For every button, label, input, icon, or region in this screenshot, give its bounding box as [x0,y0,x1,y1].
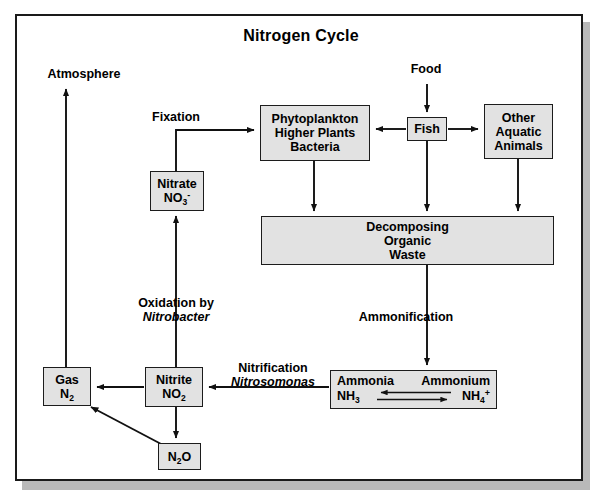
label-food: Food [384,62,468,76]
node-fish-label: Fish [414,122,440,136]
ammonia-formula-base: NH [337,389,355,403]
node-nitrous-oxide[interactable]: N2O [158,443,201,470]
node-gas-formula: N2 [60,387,74,401]
label-oxidation-line1: Oxidation by [112,296,240,310]
label-oxidation-line2: Nitrobacter [112,310,240,324]
node-phytoplankton-line2: Higher Plants [275,126,356,140]
node-fish[interactable]: Fish [407,117,447,141]
ammonium-formula-sup: + [485,388,490,398]
label-nitrification-nitrosomonas: Nitrification Nitrosomonas [210,361,336,389]
node-nitrate-label: Nitrate [157,177,197,191]
node-nitrate-formula-base: NO [164,191,183,205]
ammonium-formula: NH4+ [462,389,490,403]
node-other-aquatic-line1: Other [502,111,535,125]
node-phytoplankton-line3: Bacteria [290,140,339,154]
label-atmosphere: Atmosphere [28,67,140,81]
ammonia-formulas-row: NH3 NH4+ [337,389,490,403]
node-other-aquatic-line2: Aquatic [496,125,542,139]
label-ammonification-text: Ammonification [336,310,476,324]
label-atmosphere-text: Atmosphere [28,67,140,81]
node-ammonia-ammonium[interactable]: Ammonia Ammonium NH3 NH4+ [330,370,497,409]
node-nitrite[interactable]: Nitrite NO2 [145,367,203,407]
node-n2o-formula-sub: 2 [177,456,182,466]
ammonium-label: Ammonium [421,374,490,388]
nitrogen-cycle-diagram: Nitrogen Cycle Atmosphere Food Fixation … [0,0,602,499]
node-nitrite-formula: NO2 [162,387,185,401]
node-n2o-formula-o: O [182,450,192,464]
node-nitrate-formula: NO3- [164,191,190,205]
ammonia-names-row: Ammonia Ammonium [337,374,490,388]
label-fixation-text: Fixation [130,110,222,124]
node-gas-formula-sub: 2 [69,393,74,403]
node-phytoplankton-line1: Phytoplankton [272,112,359,126]
node-n2o-formula-n: N [168,450,177,464]
label-nitrification-line2: Nitrosomonas [210,375,336,389]
ammonia-label: Ammonia [337,374,394,388]
node-gas-label: Gas [55,373,79,387]
label-oxidation-by-nitrobacter: Oxidation by Nitrobacter [112,296,240,324]
node-decomposing-line1: Decomposing [366,220,449,234]
node-decomposing-line3: Waste [389,248,425,262]
node-nitrate[interactable]: Nitrate NO3- [150,171,204,211]
node-phytoplankton[interactable]: Phytoplankton Higher Plants Bacteria [260,105,370,161]
node-other-aquatic-line3: Animals [494,139,543,153]
label-fixation: Fixation [130,110,222,124]
node-nitrite-formula-base: NO [162,387,181,401]
node-gas-n2[interactable]: Gas N2 [43,367,91,406]
ammonia-formula-sub: 3 [355,395,360,405]
ammonia-formula: NH3 [337,389,360,403]
node-other-aquatic-animals[interactable]: Other Aquatic Animals [484,104,553,159]
node-gas-formula-base: N [60,387,69,401]
node-decomposing-line2: Organic [384,234,431,248]
node-nitrate-formula-sup: - [187,190,190,200]
label-ammonification: Ammonification [336,310,476,324]
node-nitrite-label: Nitrite [156,373,192,387]
label-nitrification-line1: Nitrification [210,361,336,375]
equilibrium-arrows-icon [375,388,453,404]
node-decomposing-organic-waste[interactable]: Decomposing Organic Waste [261,216,554,265]
diagram-title: Nitrogen Cycle [0,27,602,45]
node-n2o-formula: N2O [168,450,192,464]
node-nitrite-formula-sub: 2 [181,393,186,403]
label-food-text: Food [384,62,468,76]
ammonium-formula-base: NH [462,389,480,403]
